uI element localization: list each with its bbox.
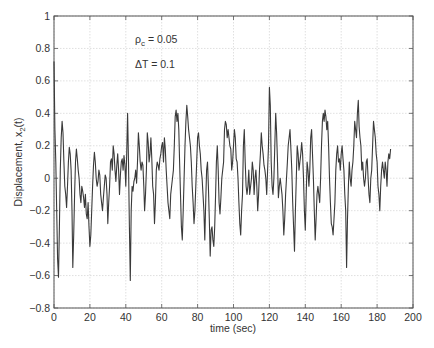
y-tick-label: −0.8: [29, 302, 50, 314]
annotation-delta-t: ΔT = 0.1: [135, 58, 175, 70]
plot-frame: [54, 16, 413, 308]
y-tick-label: 0.8: [35, 42, 50, 54]
grid: [54, 16, 413, 308]
x-tick-label: 120: [261, 311, 279, 323]
y-tick-label: 0.2: [35, 139, 50, 151]
y-tick-label: 0.4: [35, 107, 50, 119]
x-tick-label: 80: [192, 311, 204, 323]
data-line: [54, 61, 391, 280]
x-tick-label: 0: [51, 311, 57, 323]
y-tick-label: 0.6: [35, 74, 50, 86]
x-axis-label: time (sec): [210, 322, 256, 334]
y-tick-marks: −0.8−0.6−0.4−0.200.20.40.60.81: [29, 10, 413, 314]
y-tick-label: −0.4: [29, 237, 50, 249]
x-tick-label: 160: [332, 311, 350, 323]
x-tick-label: 200: [404, 311, 422, 323]
annotation-rho: ρc = 0.05: [135, 33, 178, 48]
y-tick-label: 1: [44, 10, 50, 22]
x-tick-label: 60: [156, 311, 168, 323]
x-tick-label: 180: [368, 311, 386, 323]
displacement-chart: −0.8−0.6−0.4−0.200.20.40.60.81 020406080…: [0, 0, 434, 348]
annotations: ρc = 0.05 ΔT = 0.1: [135, 33, 178, 70]
y-tick-label: 0: [44, 172, 50, 184]
y-tick-label: −0.2: [29, 204, 50, 216]
x-tick-label: 140: [297, 311, 315, 323]
y-axis-label: Displacement, x2(t): [12, 117, 27, 206]
x-tick-label: 40: [120, 311, 132, 323]
y-tick-label: −0.6: [29, 269, 50, 281]
x-tick-label: 20: [84, 311, 96, 323]
